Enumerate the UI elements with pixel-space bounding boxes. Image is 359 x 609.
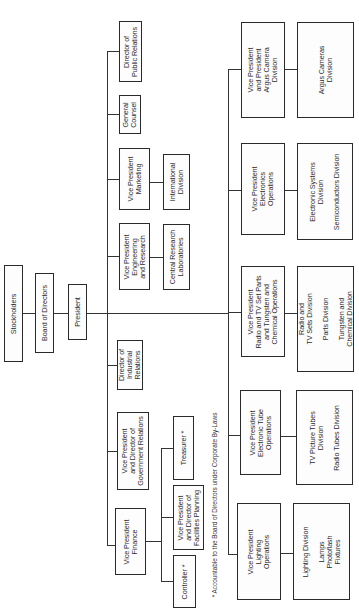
org-box-international-division: International Division (163, 154, 190, 210)
connector-line (161, 448, 173, 449)
org-box-stockholders: Stockholders (4, 265, 23, 362)
org-box-label: Vice President Lighting Operations (247, 529, 271, 574)
org-box-vp-argus-camera: Vice President and President Argus Camer… (241, 22, 285, 118)
connector-line (107, 51, 108, 546)
connector-line (22, 313, 36, 314)
org-box-label: TV Picture Tubes Division Radio Tubes Di… (309, 405, 341, 471)
org-box-label: Radio and TV Sets Division Parts Divisio… (298, 291, 354, 346)
connector-line (161, 581, 173, 582)
connector-line (107, 451, 117, 452)
connector-line (107, 365, 117, 366)
org-box-label: Vice President and President Argus Camer… (247, 47, 279, 92)
org-box-label: Lighting Division Lamps Photoflash Fixtu… (302, 526, 342, 577)
org-box-electronic-systems-division: Electronic Systems Division Semiconducto… (297, 143, 353, 240)
org-box-label: Vice President and Director of Facilitie… (177, 489, 201, 545)
org-box-label: International Division (169, 163, 185, 201)
org-box-argus-cameras-division: Argus Cameras Division (297, 22, 354, 118)
org-box-label: Director of Industrial Relations (118, 349, 142, 381)
org-box-general-counsel: General Counsel (119, 95, 141, 134)
org-box-label: Central Research Laboratories (169, 230, 185, 284)
connector-line (107, 179, 119, 180)
connector-line (107, 545, 115, 546)
org-box-dir-public-relations: Director of Public Relations (119, 21, 142, 82)
org-box-label: Vice President Finance (123, 519, 139, 564)
connector-line (146, 541, 162, 542)
connector-line (161, 517, 173, 518)
org-box-radio-tv-sets-division: Radio and TV Sets Division Parts Divisio… (297, 266, 354, 372)
org-box-dir-industrial-relations: Director of Industrial Relations (117, 340, 143, 390)
org-box-label: Stockholders (10, 293, 18, 333)
connector-line (54, 313, 68, 314)
org-box-label: Treasurer * (180, 431, 188, 466)
connector-line (228, 312, 241, 313)
connector-line (150, 257, 163, 258)
connector-line (281, 553, 293, 554)
connector-line (107, 114, 119, 115)
org-box-label: Vice President Electronics Operations (251, 167, 275, 212)
org-box-label: Vice President Radio and TV Set Parts an… (247, 275, 279, 348)
org-box-label: Director of Public Relations (123, 27, 139, 77)
org-box-vp-electronic-tube-operations: Vice President Electronic Tube Operation… (240, 390, 281, 475)
connector-line (281, 436, 296, 437)
org-box-president: President (68, 284, 87, 340)
org-chart: StockholdersBoard of DirectorsPresidentD… (0, 0, 359, 609)
org-box-label: General Counsel (122, 102, 138, 128)
org-box-label: Vice President Marketing (127, 157, 143, 202)
org-box-label: Controller * (181, 564, 189, 599)
connector-line (228, 190, 241, 191)
connector-line (107, 256, 119, 257)
org-box-treasurer: Treasurer * (173, 416, 194, 480)
connector-line (161, 448, 162, 582)
org-box-label: President (74, 297, 82, 326)
connector-line (285, 69, 297, 70)
org-box-label: Vice President and Director of Governmen… (121, 416, 145, 486)
connector-line (150, 182, 163, 183)
footnote: * Accountable to the Board of Directors … (211, 413, 218, 598)
connector-line (87, 313, 229, 314)
org-box-vp-facilities-planning: Vice President and Director of Facilitie… (173, 485, 204, 550)
org-box-vp-engineering-research: Vice President Engineering and Research (119, 223, 150, 290)
org-box-controller: Controller * (173, 555, 196, 608)
org-box-label: Vice President Engineering and Research (123, 234, 147, 279)
org-box-vp-finance: Vice President Finance (115, 508, 146, 575)
org-box-board: Board of Directors (35, 273, 54, 353)
connector-line (285, 313, 297, 314)
org-box-label: Argus Cameras Division (318, 46, 334, 95)
connector-line (228, 435, 240, 436)
org-box-central-research-labs: Central Research Laboratories (163, 224, 190, 290)
org-box-tv-picture-tubes-division: TV Picture Tubes Division Radio Tubes Di… (296, 390, 353, 485)
org-box-label: Board of Directors (41, 285, 49, 341)
org-box-vp-radio-tv-tungsten: Vice President Radio and TV Set Parts an… (241, 266, 285, 357)
org-box-vp-government-relations: Vice President and Director of Governmen… (117, 412, 149, 490)
connector-line (285, 190, 297, 191)
connector-line (228, 554, 237, 555)
connector-line (107, 51, 119, 52)
connector-line (228, 69, 241, 70)
org-box-vp-lighting-operations: Vice President Lighting Operations (237, 503, 281, 600)
org-box-vp-electronics-operations: Vice President Electronics Operations (241, 143, 285, 235)
org-box-vp-marketing: Vice President Marketing (119, 148, 150, 210)
org-box-lighting-division: Lighting Division Lamps Photoflash Fixtu… (293, 503, 350, 600)
org-box-label: Electronic Systems Division Semiconducto… (309, 153, 341, 229)
org-box-label: Vice President Electronic Tube Operation… (249, 408, 273, 456)
